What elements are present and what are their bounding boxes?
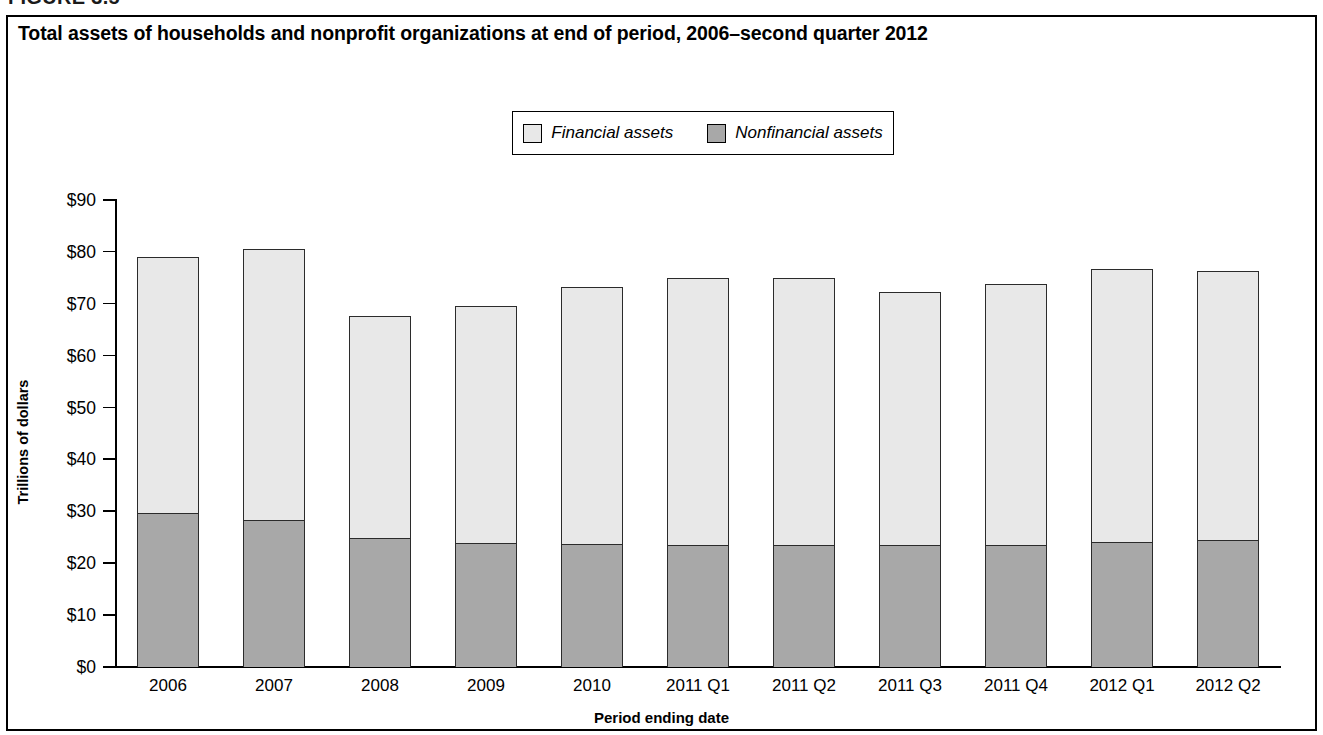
bar-group-2011-q2	[773, 278, 835, 667]
y-tick-mark-0	[103, 666, 115, 668]
y-tick-label-80: $80	[67, 241, 96, 262]
x-tick-label-2011-q2: 2011 Q2	[772, 676, 836, 696]
plot-area	[115, 200, 1280, 667]
bar-segment-nonfinancial	[1091, 542, 1153, 667]
bar-group-2011-q3	[879, 292, 941, 667]
bar-group-2012-q2	[1197, 271, 1259, 667]
bar-segment-nonfinancial	[349, 538, 411, 667]
y-tick-label-90: $90	[67, 190, 96, 211]
bar-group-2008	[349, 316, 411, 667]
y-tick-label-50: $50	[67, 397, 96, 418]
x-tick-label-2011-q3: 2011 Q3	[878, 676, 942, 696]
y-axis-title: Trillions of dollars	[15, 362, 31, 522]
bar-segment-nonfinancial	[1197, 540, 1259, 667]
bar-segment-financial	[561, 287, 623, 544]
bar-group-2009	[455, 306, 517, 667]
x-tick-label-2009: 2009	[467, 676, 505, 696]
y-tick-mark-10	[103, 614, 115, 616]
y-tick-label-10: $10	[67, 605, 96, 626]
bar-segment-financial	[879, 292, 941, 545]
bar-segment-nonfinancial	[455, 543, 517, 667]
bar-segment-nonfinancial	[137, 513, 199, 667]
y-tick-label-70: $70	[67, 293, 96, 314]
bar-segment-nonfinancial	[243, 520, 305, 667]
bar-group-2010	[561, 287, 623, 667]
chart-legend: Financial assets Nonfinancial assets	[512, 111, 894, 155]
bar-group-2011-q4	[985, 284, 1047, 667]
x-tick-label-2012-q1: 2012 Q1	[1089, 676, 1154, 696]
bar-segment-financial	[667, 278, 729, 545]
y-tick-mark-50	[103, 407, 115, 409]
legend-item-financial: Financial assets	[523, 123, 673, 143]
y-tick-label-60: $60	[67, 345, 96, 366]
x-tick-label-2011-q4: 2011 Q4	[984, 676, 1048, 696]
legend-label-nonfinancial: Nonfinancial assets	[735, 123, 882, 143]
bar-segment-financial	[773, 278, 835, 545]
legend-swatch-nonfinancial-icon	[707, 124, 726, 143]
bar-segment-nonfinancial	[667, 545, 729, 667]
legend-item-nonfinancial: Nonfinancial assets	[707, 123, 882, 143]
bar-group-2011-q1	[667, 278, 729, 667]
bar-segment-financial	[1197, 271, 1259, 540]
x-tick-label-2006: 2006	[149, 676, 187, 696]
figure-page: FIGURE 3.5 Total assets of households an…	[0, 0, 1323, 735]
bar-segment-financial	[455, 306, 517, 543]
y-tick-label-30: $30	[67, 501, 96, 522]
y-tick-mark-80	[103, 251, 115, 253]
bar-segment-financial	[349, 316, 411, 538]
x-tick-label-2012-q2: 2012 Q2	[1195, 676, 1260, 696]
bar-segment-nonfinancial	[985, 545, 1047, 667]
bar-group-2006	[137, 257, 199, 667]
bar-segment-nonfinancial	[879, 545, 941, 667]
y-tick-label-20: $20	[67, 553, 96, 574]
x-tick-label-2011-q1: 2011 Q1	[666, 676, 730, 696]
y-tick-mark-70	[103, 303, 115, 305]
y-tick-mark-20	[103, 562, 115, 564]
legend-label-financial: Financial assets	[551, 123, 673, 143]
bar-segment-nonfinancial	[561, 544, 623, 667]
bar-segment-financial	[243, 249, 305, 519]
bar-segment-financial	[137, 257, 199, 513]
bar-segment-nonfinancial	[773, 545, 835, 667]
x-tick-label-2010: 2010	[573, 676, 611, 696]
legend-swatch-financial-icon	[523, 124, 542, 143]
y-tick-mark-90	[103, 199, 115, 201]
bar-group-2012-q1	[1091, 269, 1153, 667]
y-tick-mark-40	[103, 458, 115, 460]
x-axis-title: Period ending date	[0, 709, 1323, 726]
x-tick-label-2008: 2008	[361, 676, 399, 696]
y-tick-label-0: $0	[77, 657, 96, 678]
bar-segment-financial	[1091, 269, 1153, 542]
y-tick-mark-30	[103, 510, 115, 512]
bar-group-2007	[243, 249, 305, 667]
bar-segment-financial	[985, 284, 1047, 545]
x-tick-label-2007: 2007	[255, 676, 293, 696]
chart-title: Total assets of households and nonprofit…	[18, 22, 928, 45]
y-tick-mark-60	[103, 355, 115, 357]
y-tick-label-40: $40	[67, 449, 96, 470]
